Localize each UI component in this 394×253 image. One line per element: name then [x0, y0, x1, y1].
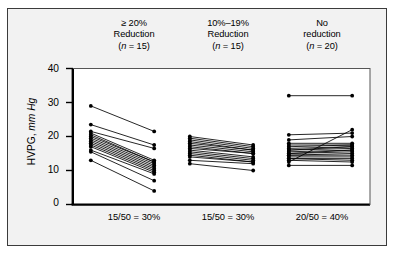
data-point: [89, 145, 93, 149]
data-point: [350, 94, 354, 98]
data-point: [89, 123, 93, 127]
data-point: [287, 133, 291, 137]
data-point: [152, 147, 156, 151]
data-point: [89, 104, 93, 108]
data-point: [350, 164, 354, 168]
data-point: [350, 135, 354, 139]
data-point: [152, 172, 156, 176]
data-point: [89, 150, 93, 154]
data-point: [287, 94, 291, 98]
data-point: [152, 179, 156, 183]
data-point: [350, 131, 354, 135]
data-point: [251, 152, 255, 156]
data-point: [350, 160, 354, 164]
group-footer-1: 15/50 = 30%: [180, 212, 276, 222]
data-point: [350, 128, 354, 132]
data-point: [152, 189, 156, 193]
data-point: [188, 155, 192, 159]
group-footer-2: 20/50 = 40%: [274, 212, 370, 222]
data-point: [287, 164, 291, 168]
data-point: [251, 169, 255, 173]
figure-container: ≥ 20% Reduction (n = 15) 10%–19% Reducti…: [0, 0, 394, 253]
data-point: [89, 158, 93, 162]
data-point: [287, 160, 291, 164]
data-point: [188, 162, 192, 166]
plot-background: [72, 69, 370, 204]
group-footer-0: 15/50 = 30%: [86, 212, 182, 222]
data-point: [251, 162, 255, 166]
data-point: [152, 130, 156, 134]
data-point: [287, 138, 291, 142]
figure-frame: ≥ 20% Reduction (n = 15) 10%–19% Reducti…: [7, 8, 387, 246]
data-point: [188, 158, 192, 162]
data-point: [152, 143, 156, 147]
